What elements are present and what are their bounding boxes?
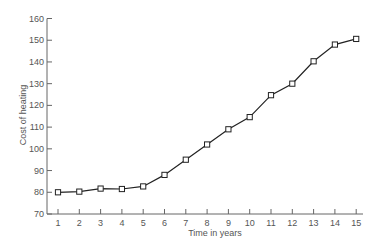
x-tick-label: 13 <box>309 218 319 228</box>
x-tick-label: 5 <box>141 218 146 228</box>
square-marker-icon <box>332 42 337 47</box>
chart-canvas: 708090100110120130140150160 123456789101… <box>0 0 390 251</box>
line-chart: 708090100110120130140150160 123456789101… <box>0 0 390 251</box>
square-marker-icon <box>268 93 273 98</box>
y-tick-label: 70 <box>34 209 44 219</box>
y-tick-label: 100 <box>29 144 44 154</box>
x-tick-label: 1 <box>55 218 60 228</box>
x-tick-label: 14 <box>330 218 340 228</box>
x-tick-label: 11 <box>266 218 275 228</box>
square-marker-icon <box>226 127 231 132</box>
y-tick-label: 160 <box>29 14 44 24</box>
square-marker-icon <box>247 115 252 120</box>
x-tick-label: 10 <box>245 218 255 228</box>
x-tick-label: 15 <box>351 218 361 228</box>
series-layer <box>55 36 358 195</box>
square-marker-icon <box>290 81 295 86</box>
x-tick-label: 4 <box>119 218 124 228</box>
square-marker-icon <box>311 59 316 64</box>
square-marker-icon <box>205 142 210 147</box>
y-tick-label: 90 <box>34 166 44 176</box>
y-axis-label: Cost of heating <box>18 85 28 146</box>
y-tick-label: 110 <box>30 122 44 132</box>
square-marker-icon <box>183 157 188 162</box>
square-marker-icon <box>98 186 103 191</box>
square-marker-icon <box>77 189 82 194</box>
y-axis: 708090100110120130140150160 <box>29 14 52 220</box>
x-tick-label: 3 <box>98 218 103 228</box>
x-axis-label: Time in years <box>188 228 242 238</box>
square-marker-icon <box>354 36 359 41</box>
x-tick-label: 12 <box>287 218 297 228</box>
square-marker-icon <box>141 184 146 189</box>
x-tick-label: 2 <box>77 218 82 228</box>
y-tick-label: 140 <box>29 57 44 67</box>
y-tick-label: 80 <box>34 187 44 197</box>
y-tick-label: 150 <box>29 35 44 45</box>
square-marker-icon <box>119 186 124 191</box>
y-tick-label: 120 <box>29 100 44 110</box>
x-tick-label: 7 <box>183 218 188 228</box>
y-tick-label: 130 <box>29 79 44 89</box>
square-marker-icon <box>162 172 167 177</box>
x-tick-label: 9 <box>226 218 231 228</box>
square-marker-icon <box>55 190 60 195</box>
x-axis: 123456789101112131415 <box>47 209 363 228</box>
x-tick-label: 6 <box>162 218 167 228</box>
x-tick-label: 8 <box>205 218 210 228</box>
